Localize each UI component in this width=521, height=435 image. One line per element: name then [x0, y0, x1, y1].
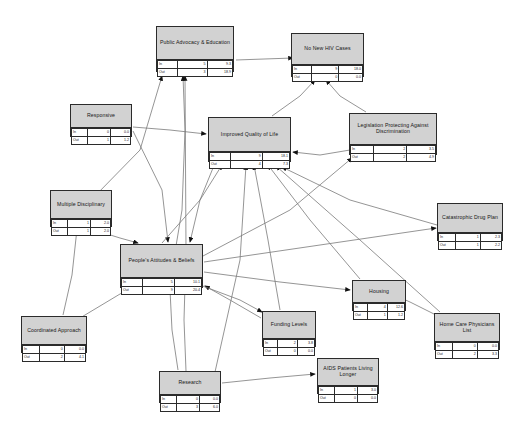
table-row: In510.1	[122, 279, 202, 287]
diagram-canvas: Public Advocacy & EducationIn59.3Out318.…	[0, 0, 521, 435]
node-title: AIDS Patients Living Longer	[318, 359, 378, 386]
metric-value: 2.3	[480, 234, 501, 242]
node-housing[interactable]: HousingIn412.6Out11.2	[352, 280, 406, 311]
node-no-new-hiv-cases[interactable]: No New HIV CasesIn918.0Out00.0	[291, 33, 364, 77]
table-row: Out24.9	[351, 154, 436, 162]
metric-count: 0	[87, 129, 110, 137]
node-catastrophic-drug-plan[interactable]: Catastrophic Drug PlanIn12.3Out12.2	[437, 203, 503, 241]
metric-row-label: Out	[436, 351, 453, 359]
edge-improved-quality-of-life-to-peoples-attitudes-beliefs	[190, 163, 215, 242]
metric-row-label: Out	[23, 354, 40, 362]
metric-count: 9	[231, 153, 262, 161]
node-title: Legislation Protecting Against Discrimin…	[350, 114, 436, 145]
metric-row-label: In	[439, 234, 456, 242]
edge-responsive-to-improved-quality-of-life	[133, 127, 206, 134]
metric-value: 2.2	[480, 242, 501, 250]
edge-peoples-attitudes-beliefs-to-public-advocacy-education	[176, 76, 185, 246]
metric-count: 1	[455, 234, 480, 242]
node-title: Improved Quality of Life	[209, 118, 290, 152]
node-funding-levels[interactable]: Funding LevelsIn23.8Out00.0	[262, 311, 316, 347]
metric-count: 2	[373, 154, 406, 162]
metric-value: 1.2	[110, 137, 130, 145]
node-peoples-attitudes-beliefs[interactable]: People's Attitudes & BeliefsIn510.1Out92…	[120, 244, 203, 288]
metric-value: 7.3	[262, 161, 289, 169]
metric-count: 0	[176, 396, 199, 404]
metric-value: 2.0	[90, 228, 110, 236]
table-row: Out24.1	[23, 354, 86, 362]
metric-count: 0	[39, 346, 64, 354]
edge-catastrophic-drug-plan-to-improved-quality-of-life	[282, 167, 437, 225]
table-row: Out12.0	[52, 228, 111, 236]
node-metrics-table: In23.8Out00.0	[263, 339, 315, 356]
node-metrics-table: In12.0Out12.0	[51, 219, 111, 236]
node-legislation-protecting-against-discrimination[interactable]: Legislation Protecting Against Discrimin…	[349, 113, 437, 155]
metric-count: 1	[67, 220, 90, 228]
node-metrics-table: In00.0Out36.0	[160, 395, 220, 412]
metric-row-label: In	[293, 66, 312, 74]
metric-row-label: Out	[264, 348, 278, 356]
metric-row-label: Out	[439, 242, 456, 250]
metric-count: 0	[452, 343, 477, 351]
metric-count: 9	[311, 66, 338, 74]
metric-row-label: In	[436, 343, 453, 351]
node-coordinated-approach[interactable]: Coordinated ApproachIn00.0Out24.1	[21, 316, 87, 353]
node-responsive[interactable]: ResponsiveIn00.0Out11.2	[70, 104, 132, 137]
metric-value: 0.0	[477, 343, 498, 351]
node-title: Public Advocacy & Education	[157, 27, 233, 60]
metric-row-label: Out	[52, 228, 68, 236]
table-row: In00.0	[436, 343, 499, 351]
metric-row-label: In	[122, 279, 143, 287]
node-metrics-table: In412.6Out11.2	[353, 303, 405, 320]
node-title: Research	[160, 372, 220, 395]
node-improved-quality-of-life[interactable]: Improved Quality of LifeIn918.1Out47.3	[208, 117, 291, 162]
metric-value: 3.3	[477, 351, 498, 359]
metric-value: 3.0	[357, 387, 377, 395]
metric-value: 2.0	[90, 220, 110, 228]
edge-funding-levels-to-improved-quality-of-life	[254, 165, 280, 310]
metric-row-label: Out	[293, 74, 312, 82]
table-row: In00.0	[72, 129, 131, 137]
node-title: Housing	[353, 281, 405, 303]
edge-research-to-improved-quality-of-life	[215, 165, 246, 372]
node-title: Catastrophic Drug Plan	[438, 204, 502, 233]
metric-row-label: In	[319, 387, 335, 395]
table-row: In00.0	[161, 396, 220, 404]
edge-peoples-attitudes-beliefs-to-housing	[204, 272, 350, 290]
metric-count: 3	[178, 69, 207, 77]
metric-row-label: Out	[161, 404, 177, 412]
node-title: People's Attitudes & Beliefs	[121, 245, 202, 278]
metric-count: 2	[39, 354, 64, 362]
metric-row-label: In	[210, 153, 231, 161]
metric-count: 2	[373, 146, 406, 154]
metric-count: 1	[67, 228, 90, 236]
node-title: Home Care Physicians List	[435, 314, 499, 342]
node-public-advocacy-education[interactable]: Public Advocacy & EducationIn59.3Out318.…	[156, 26, 234, 72]
metric-count: 1	[334, 387, 357, 395]
metric-row-label: In	[52, 220, 68, 228]
node-multiple-disciplinary[interactable]: Multiple DisciplinaryIn12.0Out12.0	[50, 190, 112, 227]
metric-value: 1.2	[387, 312, 404, 320]
node-aids-patients-living-longer[interactable]: AIDS Patients Living LongerIn13.0Out00.0	[317, 358, 379, 394]
metric-value: 4.1	[64, 354, 85, 362]
edge-legislation-protecting-against-discrimination-to-improved-quality-of-life	[293, 150, 350, 155]
node-home-care-physicians-list[interactable]: Home Care Physicians ListIn00.0Out23.3	[434, 313, 500, 350]
node-metrics-table: In00.0Out23.3	[435, 342, 499, 359]
metric-value: 20.4	[174, 287, 201, 295]
edge-public-advocacy-education-to-no-new-hiv-cases	[236, 58, 293, 60]
metric-value: 12.6	[387, 304, 404, 312]
table-row: In00.0	[23, 346, 86, 354]
metric-count: 0	[334, 395, 357, 403]
metric-row-label: Out	[319, 395, 335, 403]
table-row: In12.3	[439, 234, 502, 242]
table-row: Out318.9	[158, 69, 233, 77]
metric-value: 18.9	[207, 69, 232, 77]
edge-research-to-aids-patients-living-longer	[222, 374, 315, 383]
edge-legislation-protecting-against-discrimination-to-no-new-hiv-cases	[326, 80, 366, 112]
metric-value: 0.0	[199, 396, 219, 404]
table-row: Out47.3	[210, 161, 290, 169]
metric-count: 2	[277, 340, 297, 348]
metric-row-label: Out	[122, 287, 143, 295]
node-research[interactable]: ResearchIn00.0Out36.0	[159, 371, 221, 403]
node-metrics-table: In00.0Out24.1	[22, 345, 86, 362]
table-row: In23.8	[264, 340, 315, 348]
